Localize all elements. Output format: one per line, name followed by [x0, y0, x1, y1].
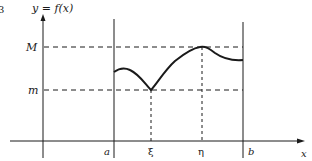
- x-axis-label: x: [301, 148, 307, 159]
- label-a: a: [104, 146, 110, 157]
- y-axis-label: y = f(x): [31, 2, 73, 15]
- function-curve: [114, 47, 243, 90]
- figure-number: 3: [0, 4, 4, 15]
- x-axis-arrow-icon: [297, 139, 305, 144]
- y-axis-arrow-icon: [41, 14, 46, 21]
- label-m: m: [28, 84, 38, 97]
- label-xi: ξ: [148, 146, 154, 157]
- label-b: b: [248, 146, 254, 157]
- label-M: M: [25, 41, 38, 54]
- extreme-value-diagram: 3 y = f(x) x M m a b ξ η: [0, 0, 312, 161]
- label-eta: η: [198, 146, 204, 157]
